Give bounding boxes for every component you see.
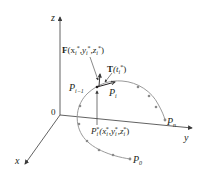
line-integral-diagram: z y x 0 F(xi*,yi*,zi*) T(ti*) Pi−1 Pi [0,0,205,184]
partition-point [112,154,115,157]
point-p0 [129,158,132,161]
curve-C [77,81,165,159]
partition-point [78,123,81,126]
point-p-i-minus-1 [96,86,99,89]
point-p-i [111,82,114,85]
partition-point [155,106,158,109]
partition-point [137,86,140,89]
y-axis-label: y [183,132,189,143]
partition-point [79,105,82,108]
z-axis-label: z [50,12,55,23]
partition-point [148,95,151,98]
x-axis-label: x [14,155,20,166]
partition-point [98,149,101,152]
tangent-label: T(ti*) [107,64,126,75]
point-pn [164,119,167,122]
p-star-label: Pi*(xi*,yi*,zi*) [90,126,129,137]
x-axis [25,115,60,164]
tangent-label-pointer [105,73,112,82]
p-n-label: Pn [166,116,176,128]
force-vector-F [99,74,100,86]
force-label: F(xi*,yi*,zi*) [62,45,104,56]
p-i-label: Pi [108,87,117,99]
p-0-label: P0 [132,154,142,166]
p-i-minus-1-label: Pi−1 [68,82,84,94]
origin-label: 0 [51,107,56,117]
force-label-pointer [90,57,98,80]
partition-point [86,140,89,143]
